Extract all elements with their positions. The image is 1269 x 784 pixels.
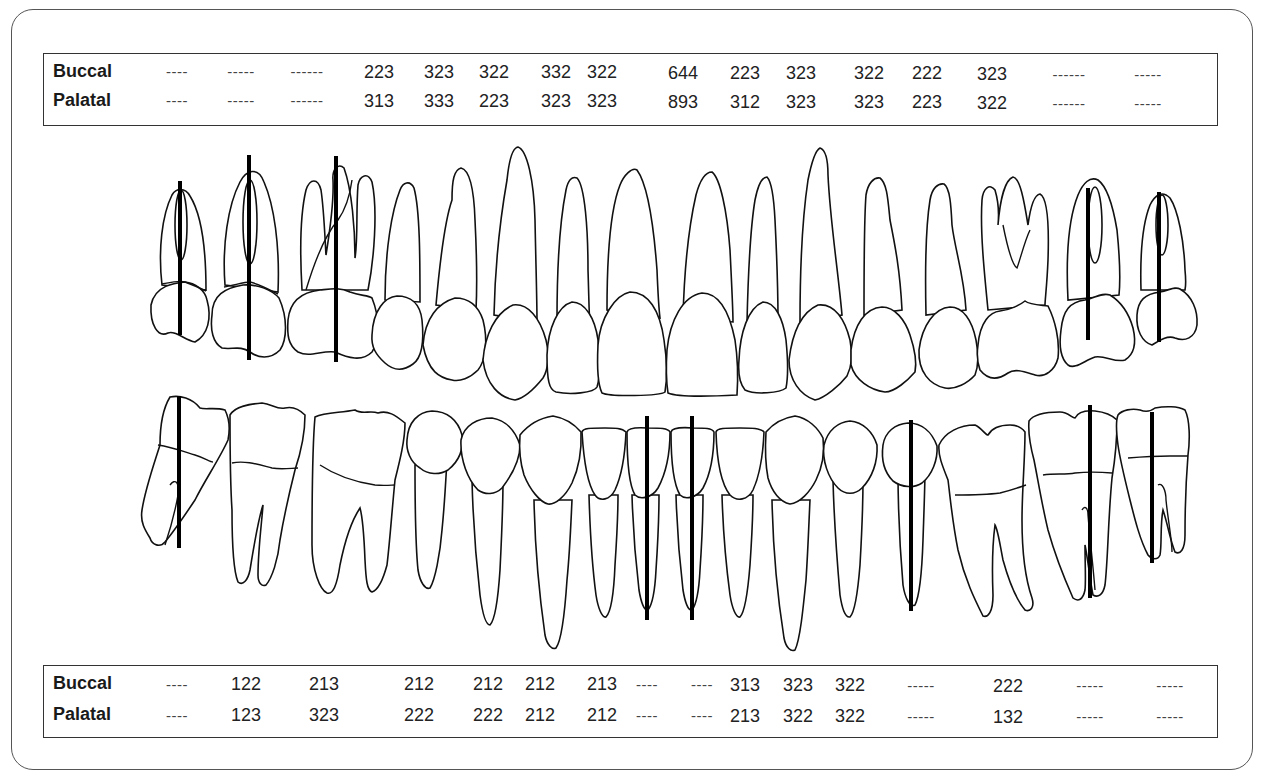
lower-palatal-cell: 123 <box>231 705 261 726</box>
lower-tooth-6 <box>520 416 582 648</box>
lower-buccal-cell: ----- <box>1076 677 1103 694</box>
lower-buccal-cell: 122 <box>231 674 261 695</box>
upper-tooth-3 <box>288 166 378 358</box>
lower-buccal-cell: ---- <box>636 676 658 693</box>
upper-tooth-11 <box>789 148 851 400</box>
lower-palatal-cell: 212 <box>587 705 617 726</box>
lower-palatal-cell: 322 <box>835 706 865 727</box>
lower-buccal-cell: ----- <box>1156 677 1183 694</box>
upper-tooth-5 <box>423 168 486 381</box>
lower-palatal-cell: 212 <box>525 705 555 726</box>
lower-palatal-cell: 213 <box>730 706 760 727</box>
upper-tooth-13 <box>919 184 978 388</box>
upper-tooth-8 <box>598 169 667 395</box>
lower-buccal-cell: 213 <box>587 674 617 695</box>
upper-tooth-12 <box>851 178 916 392</box>
lower-palatal-cell: ---- <box>636 707 658 724</box>
lower-palatal-cell: ----- <box>1076 708 1103 725</box>
lower-buccal-cell: 322 <box>835 675 865 696</box>
lower-tooth-14 <box>939 425 1033 616</box>
lower-pocket-depth-table: Buccal Palatal ---- 122 213 212 212 212 … <box>43 665 1218 738</box>
lower-palatal-cell: 322 <box>783 706 813 727</box>
lower-palatal-cell: 222 <box>404 705 434 726</box>
lower-tooth-2 <box>230 403 305 586</box>
lower-tooth-7 <box>582 428 626 617</box>
lower-buccal-cell: ---- <box>166 676 188 693</box>
lower-buccal-cell: ---- <box>691 676 713 693</box>
lower-tooth-1 <box>142 396 230 545</box>
upper-tooth-6 <box>483 147 548 400</box>
lower-buccal-cell: 213 <box>309 674 339 695</box>
lower-palatal-cell: ----- <box>907 708 934 725</box>
upper-tooth-14 <box>977 177 1058 378</box>
lower-palatal-cell: ---- <box>166 707 188 724</box>
lower-tooth-3 <box>312 410 405 593</box>
lower-buccal-cell: 212 <box>473 674 503 695</box>
lower-tooth-11 <box>765 416 823 651</box>
upper-tooth-9 <box>666 172 737 396</box>
lower-tooth-15 <box>1029 411 1117 600</box>
upper-tooth-15 <box>1060 179 1134 367</box>
upper-tooth-7 <box>547 178 599 394</box>
lower-palatal-cell: ---- <box>691 707 713 724</box>
lower-tooth-12 <box>824 421 877 617</box>
lower-buccal-cell: 313 <box>730 675 760 696</box>
upper-tooth-16 <box>1137 194 1197 345</box>
lower-buccal-label: Buccal <box>53 673 112 694</box>
lower-buccal-cell: 222 <box>993 676 1023 697</box>
lower-buccal-cell: ----- <box>907 677 934 694</box>
lower-palatal-label: Palatal <box>53 704 111 725</box>
lower-tooth-5 <box>461 418 520 625</box>
lower-palatal-cell: 323 <box>309 705 339 726</box>
lower-tooth-4 <box>407 411 463 588</box>
upper-tooth-10 <box>739 177 788 393</box>
lower-tooth-10 <box>716 428 764 617</box>
upper-arch <box>151 147 1197 400</box>
lower-buccal-cell: 212 <box>404 674 434 695</box>
lower-buccal-cell: 323 <box>783 675 813 696</box>
lower-palatal-cell: ----- <box>1156 708 1183 725</box>
upper-tooth-4 <box>372 183 423 369</box>
lower-arch <box>142 396 1190 650</box>
lower-palatal-cell: 132 <box>993 707 1023 728</box>
lower-palatal-cell: 222 <box>473 705 503 726</box>
lower-buccal-cell: 212 <box>525 674 555 695</box>
